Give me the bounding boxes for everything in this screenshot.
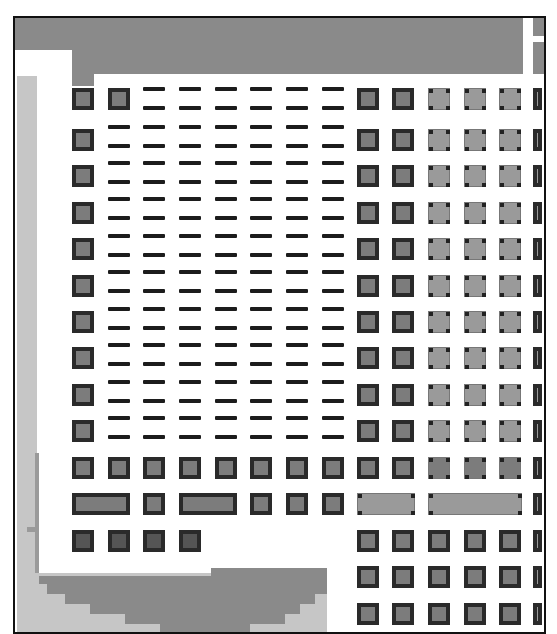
dash-mark xyxy=(215,343,237,347)
pad-corner-dot xyxy=(429,494,433,498)
pad-corner-dot xyxy=(500,147,504,151)
left-pad xyxy=(72,202,94,224)
left-pad xyxy=(72,88,94,110)
left-pad xyxy=(143,457,165,479)
edge-pad xyxy=(533,347,542,369)
pad-corner-dot xyxy=(429,89,433,93)
pad-corner-dot xyxy=(482,458,486,462)
pad-corner-dot xyxy=(429,365,433,369)
wide-block xyxy=(250,493,272,515)
pad-corner-dot xyxy=(482,293,486,297)
dash-mark xyxy=(143,343,165,347)
edge-pad xyxy=(533,566,542,588)
dash-mark xyxy=(143,216,165,220)
bottom-dark-region-d xyxy=(65,594,315,604)
pad-corner-dot xyxy=(465,312,469,316)
dash-mark xyxy=(322,416,344,420)
dash-mark xyxy=(250,399,272,403)
left-pad xyxy=(179,457,201,479)
dash-mark xyxy=(108,197,130,201)
dash-mark xyxy=(215,307,237,311)
dash-mark xyxy=(179,326,201,330)
right-pad xyxy=(392,347,414,369)
dash-mark xyxy=(215,180,237,184)
pad-corner-dot xyxy=(482,166,486,170)
left-pad xyxy=(179,530,201,552)
dash-mark xyxy=(322,399,344,403)
dash-mark xyxy=(179,289,201,293)
dash-mark xyxy=(286,343,308,347)
pad-corner-dot xyxy=(429,276,433,280)
dash-mark xyxy=(215,326,237,330)
pad-corner-dot xyxy=(429,421,433,425)
right-pad xyxy=(392,566,414,588)
right-edge-strip-top xyxy=(533,18,544,36)
pad-corner-dot xyxy=(429,438,433,442)
right-pad xyxy=(499,202,521,224)
dash-mark xyxy=(179,307,201,311)
right-pad xyxy=(357,566,379,588)
dash-mark xyxy=(179,253,201,257)
right-pad xyxy=(392,311,414,333)
right-pad xyxy=(499,384,521,406)
dash-mark xyxy=(250,326,272,330)
pad-corner-dot xyxy=(465,147,469,151)
left-shaded-column xyxy=(17,76,37,632)
left-pad xyxy=(72,347,94,369)
pad-corner-dot xyxy=(429,239,433,243)
dash-mark xyxy=(286,289,308,293)
right-pad xyxy=(357,384,379,406)
pad-corner-dot xyxy=(482,421,486,425)
dash-mark xyxy=(215,380,237,384)
dash-mark xyxy=(286,270,308,274)
dash-mark xyxy=(143,416,165,420)
left-pad xyxy=(108,457,130,479)
dash-mark xyxy=(250,144,272,148)
dash-mark xyxy=(322,161,344,165)
dash-mark xyxy=(322,253,344,257)
pad-corner-dot xyxy=(465,166,469,170)
dash-mark xyxy=(143,435,165,439)
pad-corner-dot xyxy=(465,402,469,406)
pad-corner-dot xyxy=(482,203,486,207)
pad-corner-dot xyxy=(446,239,450,243)
right-pad xyxy=(464,88,486,110)
dash-mark xyxy=(322,180,344,184)
right-pad xyxy=(464,603,486,625)
pad-corner-dot xyxy=(446,421,450,425)
dash-mark xyxy=(322,343,344,347)
dash-mark xyxy=(179,87,201,91)
pad-corner-dot xyxy=(358,494,362,498)
pad-corner-dot xyxy=(446,438,450,442)
right-pad xyxy=(392,202,414,224)
right-pad xyxy=(428,88,450,110)
right-pad xyxy=(428,603,450,625)
right-pad xyxy=(499,347,521,369)
dash-mark xyxy=(322,216,344,220)
pad-corner-dot xyxy=(446,365,450,369)
dash-mark xyxy=(215,289,237,293)
dash-mark xyxy=(108,399,130,403)
pad-corner-dot xyxy=(482,256,486,260)
dash-mark xyxy=(322,270,344,274)
right-pad xyxy=(357,88,379,110)
pad-corner-dot xyxy=(465,89,469,93)
layout-frame xyxy=(13,16,546,634)
edge-pad xyxy=(533,129,542,151)
right-pad xyxy=(357,275,379,297)
dash-mark xyxy=(286,416,308,420)
pad-corner-dot xyxy=(429,293,433,297)
pad-corner-dot xyxy=(517,329,521,333)
dash-mark xyxy=(215,106,237,110)
pad-corner-dot xyxy=(465,365,469,369)
dash-mark xyxy=(322,289,344,293)
left-pad xyxy=(72,311,94,333)
right-pad xyxy=(464,165,486,187)
pad-corner-dot xyxy=(500,203,504,207)
dash-mark xyxy=(322,234,344,238)
right-pad xyxy=(392,165,414,187)
pad-corner-dot xyxy=(482,239,486,243)
right-pad xyxy=(428,566,450,588)
dash-mark xyxy=(108,362,130,366)
dash-mark xyxy=(143,197,165,201)
